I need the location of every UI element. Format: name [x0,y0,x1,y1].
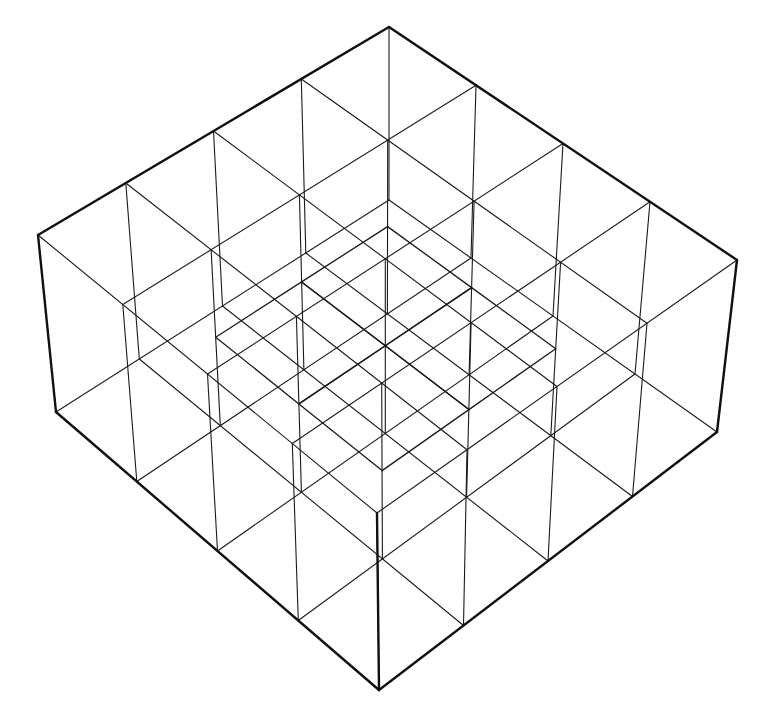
outer-edge [377,513,379,690]
vertical-post [382,383,383,559]
mid-grid-line [302,227,388,282]
vertical-post [211,250,220,426]
vertical-post [208,374,218,551]
mid-grid-line [216,337,299,404]
mid-grid-line [299,346,385,404]
vertical-post [296,316,301,492]
mid-grid-line [299,404,382,471]
top-grid-line [377,260,737,513]
outer-edge [56,412,379,690]
bottom-grid-lines [56,200,717,690]
mid-grid-line [216,282,302,337]
vertical-post [292,444,298,621]
vertical-post [553,144,563,317]
mid-grid-line [382,410,469,471]
mid-grid-line [385,346,469,410]
vertical-post [214,131,223,306]
top-grid-line [126,183,467,450]
outer-edge [717,260,737,432]
vertical-post [126,183,140,359]
mid-grid-line [388,227,472,288]
outer-box-edges [38,27,737,690]
vertical-post [464,450,468,626]
vertical-post [633,323,648,496]
outer-edge [38,27,389,235]
outer-edge [379,432,717,690]
mid-grid-line [469,349,556,410]
vertical-post [635,202,650,374]
outer-edge [389,27,737,260]
vertical-posts [38,27,737,690]
mid-grid-line [385,288,471,346]
mid-grid-line [302,282,386,346]
outer-edge [38,235,56,412]
top-grid-line [38,235,377,513]
mid-grid-line [472,288,556,349]
wireframe-grid-box-drawing [0,0,762,704]
vertical-post [301,79,306,253]
vertical-post [123,305,137,482]
